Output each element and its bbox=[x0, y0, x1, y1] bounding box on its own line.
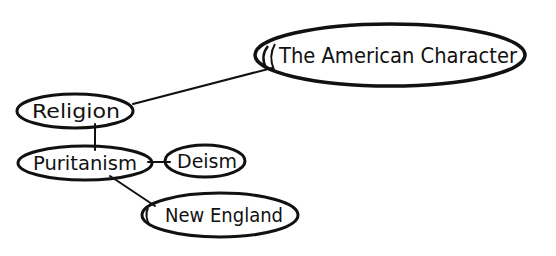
node-deism[interactable]: Deism bbox=[165, 145, 245, 177]
node-label: Puritanism bbox=[33, 152, 137, 174]
node-religion[interactable]: Religion bbox=[17, 94, 133, 128]
node-label: New England bbox=[165, 204, 283, 226]
edges bbox=[95, 68, 272, 206]
node-american-character[interactable]: The American Character bbox=[255, 24, 525, 86]
node-new-england[interactable]: New England bbox=[142, 193, 298, 237]
mind-map-canvas: The American Character Religion Puritani… bbox=[0, 0, 556, 256]
node-puritanism[interactable]: Puritanism bbox=[18, 146, 152, 180]
edge-religion-american-character bbox=[133, 68, 272, 104]
edge-puritanism-new-england bbox=[110, 176, 155, 206]
node-label: The American Character bbox=[278, 43, 518, 68]
node-label: Religion bbox=[32, 100, 120, 122]
node-label: Deism bbox=[177, 150, 237, 172]
